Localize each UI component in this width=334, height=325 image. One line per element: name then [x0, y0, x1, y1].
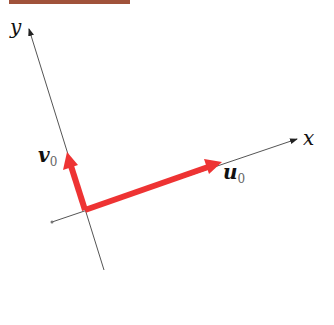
vector-u0 — [85, 159, 222, 210]
x-axis-start-dot — [51, 221, 54, 224]
u0-label: u0 — [223, 160, 245, 186]
y-axis-label: y — [9, 15, 22, 39]
vector-v0 — [63, 152, 85, 210]
x-axis-label: x — [303, 126, 314, 150]
v0-label: v0 — [38, 143, 57, 169]
coordinate-diagram: y x v0 u0 — [0, 0, 334, 325]
